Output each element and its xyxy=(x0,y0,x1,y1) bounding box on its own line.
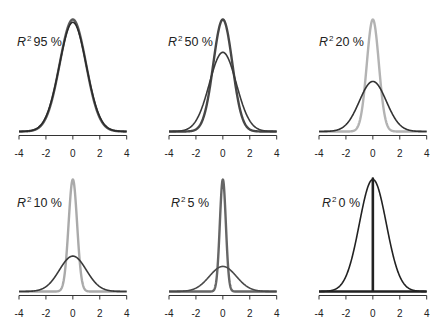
figure: R295 % R250 % R220 % R210 % R25 % R20 % … xyxy=(0,0,445,331)
x-tick-label: 4 xyxy=(424,309,430,319)
panel-3-label: R220 % xyxy=(319,36,364,49)
x-tick-label: -2 xyxy=(341,149,350,159)
r-symbol: R xyxy=(168,35,177,49)
r2-value: 50 % xyxy=(184,35,213,49)
x-tick-label: 0 xyxy=(370,309,376,319)
panel-1-label: R295 % xyxy=(17,36,62,49)
total-density-curve xyxy=(169,266,277,291)
r2-value: 0 % xyxy=(338,196,360,210)
x-tick-label: 0 xyxy=(220,309,226,319)
x-tick-label: -2 xyxy=(341,309,350,319)
x-tick-label: 0 xyxy=(220,149,226,159)
x-tick-label: 2 xyxy=(247,309,253,319)
x-tick-label: 2 xyxy=(97,149,103,159)
x-tick-label: -2 xyxy=(41,149,50,159)
r2-value: 20 % xyxy=(335,35,364,49)
r2-value: 5 % xyxy=(187,196,209,210)
total-density-curve xyxy=(19,256,127,291)
total-density-curve xyxy=(169,52,277,131)
r-symbol: R xyxy=(171,196,180,210)
x-tick-label: -2 xyxy=(191,149,200,159)
x-tick-label: 4 xyxy=(124,309,130,319)
x-tick-label: 0 xyxy=(70,149,76,159)
superscript-2: 2 xyxy=(181,195,185,204)
x-tick-label: -4 xyxy=(15,309,24,319)
superscript-2: 2 xyxy=(27,34,31,43)
total-density-curve xyxy=(319,81,427,131)
x-tick-label: -2 xyxy=(41,309,50,319)
x-tick-label: 2 xyxy=(97,309,103,319)
x-tick-label: -4 xyxy=(315,149,324,159)
x-tick-label: 4 xyxy=(274,309,280,319)
x-tick-label: 2 xyxy=(397,309,403,319)
x-tick-label: -4 xyxy=(15,149,24,159)
panel-4-label: R210 % xyxy=(17,197,62,210)
r2-value: 10 % xyxy=(33,196,62,210)
panel-2-label: R250 % xyxy=(168,36,213,49)
r-symbol: R xyxy=(17,35,26,49)
x-tick-label: -4 xyxy=(165,309,174,319)
x-tick-label: 4 xyxy=(274,149,280,159)
r-symbol: R xyxy=(17,196,26,210)
x-tick-label: -4 xyxy=(165,149,174,159)
r-symbol: R xyxy=(322,196,331,210)
superscript-2: 2 xyxy=(178,34,182,43)
x-tick-label: -2 xyxy=(191,309,200,319)
panel-6-label: R20 % xyxy=(322,197,360,210)
x-tick-label: 2 xyxy=(247,149,253,159)
panel-5-label: R25 % xyxy=(171,197,209,210)
x-tick-label: 2 xyxy=(397,149,403,159)
superscript-2: 2 xyxy=(329,34,333,43)
plot-canvas xyxy=(0,0,445,331)
r2-value: 95 % xyxy=(33,35,62,49)
x-tick-label: 0 xyxy=(370,149,376,159)
superscript-2: 2 xyxy=(27,195,31,204)
x-tick-label: 0 xyxy=(70,309,76,319)
x-tick-label: 4 xyxy=(124,149,130,159)
r-symbol: R xyxy=(319,35,328,49)
x-tick-label: -4 xyxy=(315,309,324,319)
x-tick-label: 4 xyxy=(424,149,430,159)
superscript-2: 2 xyxy=(332,195,336,204)
